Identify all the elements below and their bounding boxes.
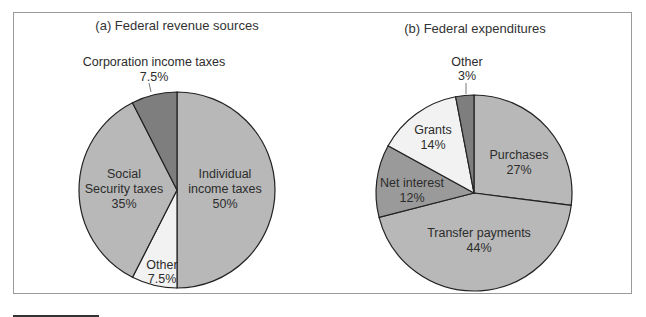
label-other-expenditure: Other <box>451 55 482 69</box>
chart-title-revenue: (a) Federal revenue sources <box>95 18 259 33</box>
charts-canvas: (a) Federal revenue sources (b) Federal … <box>0 0 646 317</box>
label-other-revenue-pct: 7.5% <box>148 272 177 286</box>
label-purchases-pct: 27% <box>506 163 531 177</box>
label-corporation-taxes: Corporation income taxes <box>83 55 225 69</box>
label-net-interest-pct: 12% <box>399 191 424 205</box>
label-net-interest: Net interest <box>380 176 444 190</box>
label-other-expenditure-pct: 3% <box>458 69 476 83</box>
label-grants: Grants <box>414 123 452 137</box>
label-social-security-2: Security taxes <box>85 182 164 196</box>
label-corporation-taxes-pct: 7.5% <box>140 70 169 84</box>
label-individual-taxes: Individual <box>199 167 252 181</box>
label-social-security: Social <box>107 167 141 181</box>
label-transfer-payments-pct: 44% <box>466 241 491 255</box>
label-transfer-payments: Transfer payments <box>427 226 531 240</box>
chart-title-expenditures: (b) Federal expenditures <box>404 21 546 36</box>
label-social-security-pct: 35% <box>111 197 136 211</box>
label-purchases: Purchases <box>489 148 548 162</box>
leader-line-corporation <box>149 83 151 92</box>
label-individual-taxes-pct: 50% <box>212 197 237 211</box>
label-individual-taxes-2: income taxes <box>188 182 262 196</box>
label-other-revenue: Other <box>146 258 177 272</box>
label-grants-pct: 14% <box>420 138 445 152</box>
